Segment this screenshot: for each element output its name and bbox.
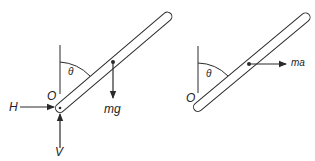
left-pivot-dot bbox=[59, 107, 62, 110]
force-v-label: V bbox=[55, 146, 63, 158]
right-pivot-label: O bbox=[186, 92, 195, 104]
right-angle-label: θ bbox=[206, 69, 211, 79]
force-h-label: H bbox=[9, 101, 18, 113]
left-angle-label: θ bbox=[68, 67, 73, 77]
right-angle-arc bbox=[198, 63, 228, 76]
force-ma-label: ma bbox=[291, 58, 305, 68]
left-pivot-label: O bbox=[47, 90, 56, 102]
diagram-canvas: O θ H V mg O θ ma bbox=[0, 0, 315, 161]
diagram-svg bbox=[0, 0, 315, 161]
left-panel bbox=[20, 10, 174, 148]
left-angle-arc bbox=[60, 62, 90, 76]
force-mg-label: mg bbox=[104, 103, 121, 115]
